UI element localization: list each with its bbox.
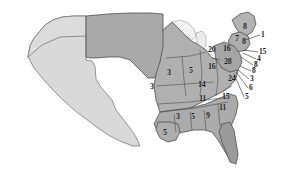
state-value-kansas: 3 <box>167 69 171 77</box>
us-electoral-map: 3516242820163141115113595878 115488365 <box>0 0 285 180</box>
leader-line-delaware <box>240 66 251 71</box>
state-value-oklahoma: 3 <box>150 83 154 91</box>
leader-line-connecticut <box>243 53 256 59</box>
state-value-pennsylvania: 28 <box>224 58 232 66</box>
callout-value-west-virginia: 5 <box>245 93 249 101</box>
state-value-new-york: 20 <box>208 46 216 54</box>
leader-line-new-jersey <box>241 57 253 65</box>
state-value-ohio: 24 <box>228 75 236 83</box>
state-value-maine: 8 <box>243 23 247 31</box>
state-value-illinois: 16 <box>208 63 216 71</box>
state-value-mississippi: 5 <box>191 113 195 121</box>
state-value-new-hampshire: 7 <box>235 35 239 43</box>
leader-line-maryland <box>238 70 249 79</box>
leader-line-virginia <box>236 72 248 88</box>
state-value-arkansas: 3 <box>176 113 180 121</box>
state-value-kentucky: 14 <box>198 81 206 89</box>
state-value-missouri: 5 <box>189 67 193 75</box>
state-value-south-carolina: 11 <box>219 104 226 112</box>
state-value-vermont: 8 <box>242 38 246 46</box>
callout-value-virginia: 6 <box>249 84 253 92</box>
state-value-tennessee: 11 <box>199 95 206 103</box>
map-regions <box>28 12 260 164</box>
state-value-louisiana: 5 <box>163 129 167 137</box>
state-value-michigan: 16 <box>223 45 231 53</box>
state-value-alabama: 9 <box>206 112 210 120</box>
region-plains <box>86 13 166 78</box>
state-value-north-carolina: 15 <box>222 93 230 101</box>
region-gulf <box>156 122 180 142</box>
leader-line-rhode-island <box>244 50 258 52</box>
callout-value-maryland: 3 <box>250 75 254 83</box>
callout-value-massachusetts: 1 <box>261 31 265 39</box>
